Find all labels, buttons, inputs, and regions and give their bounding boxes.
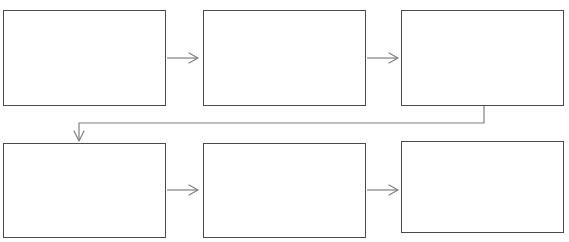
flowchart-node-6[interactable] [401, 141, 564, 233]
arrow-node-3-to-node-4 [74, 106, 484, 141]
arrow-node-5-to-node-6 [367, 185, 398, 195]
arrow-node-2-to-node-3 [367, 53, 398, 63]
flowchart-node-4[interactable] [3, 143, 166, 238]
flowchart-node-3[interactable] [401, 10, 564, 106]
flowchart-node-5[interactable] [203, 143, 366, 238]
cropped-title [0, 0, 569, 5]
flowchart-canvas [0, 0, 569, 242]
arrow-node-4-to-node-5 [167, 185, 198, 195]
flowchart-node-2[interactable] [203, 10, 366, 106]
flowchart-node-1[interactable] [3, 10, 166, 106]
arrow-node-1-to-node-2 [167, 53, 198, 63]
